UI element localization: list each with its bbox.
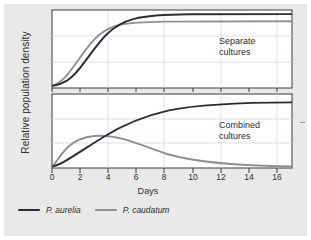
legend-item-p-caudatum: P. caudatum [95, 205, 170, 215]
x-axis-label: Days [98, 186, 198, 196]
x-tick-label-4: 4 [98, 172, 118, 182]
x-tick-label-6: 6 [126, 172, 146, 182]
panel-frame-bottom [52, 94, 292, 168]
x-tick-label-16: 16 [267, 172, 287, 182]
y-axis-label: Relative population density [20, 18, 31, 168]
panel-combined-cultures: Combined cultures [52, 94, 292, 168]
legend-line-swatch-icon [18, 209, 40, 211]
x-tick-label-0: 0 [42, 172, 62, 182]
legend-label-p-caudatum: P. caudatum [123, 205, 170, 215]
x-tick-label-14: 14 [239, 172, 259, 182]
xaxis-ticks-top-panel [52, 88, 277, 92]
panel-note-top-line1: Separate [219, 36, 256, 46]
panel-note-bottom-line2: cultures [219, 131, 251, 141]
figure-inner: Separate cultures Combined [4, 4, 307, 236]
x-tick-label-10: 10 [183, 172, 203, 182]
x-tick-label-12: 12 [211, 172, 231, 182]
chart-legend: P. aurelia P. caudatum [18, 205, 169, 215]
legend-line-swatch-icon [95, 209, 117, 211]
legend-label-p-aurelia: P. aurelia [46, 205, 81, 215]
panel-note-bottom-line1: Combined [219, 120, 260, 130]
figure-container: Separate cultures Combined [4, 4, 307, 236]
corner-tick-icon [300, 122, 305, 123]
panel-note-top-line2: cultures [219, 47, 251, 57]
chart-plot-area: Separate cultures Combined [4, 4, 307, 236]
panel-separate-cultures: Separate cultures [52, 10, 292, 88]
legend-item-p-aurelia: P. aurelia [18, 205, 81, 215]
x-tick-label-2: 2 [70, 172, 90, 182]
x-tick-label-8: 8 [154, 172, 174, 182]
